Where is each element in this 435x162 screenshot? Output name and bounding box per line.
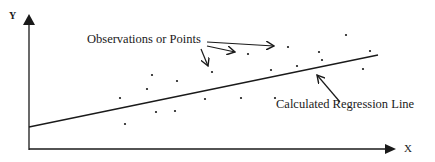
arrow-to-point-2	[207, 46, 235, 52]
data-point	[174, 110, 176, 112]
arrow-to-point-3	[201, 49, 208, 66]
regression-diagram: Y X Observations or Points Calculated Re…	[0, 0, 435, 162]
points-annotation-arrows	[201, 42, 274, 66]
data-point	[124, 123, 126, 125]
data-point	[318, 51, 320, 53]
data-point	[176, 80, 178, 82]
data-point	[204, 98, 206, 100]
data-point	[146, 88, 148, 90]
data-point	[287, 46, 289, 48]
regression-line	[29, 55, 378, 127]
data-point	[211, 71, 213, 73]
regression-line-annotation-label: Calculated Regression Line	[276, 98, 414, 111]
data-point	[362, 68, 364, 70]
y-axis-arrowhead-icon	[23, 14, 35, 25]
x-axis-label: X	[404, 143, 412, 154]
data-point	[119, 97, 121, 99]
data-point	[151, 74, 153, 76]
data-point	[247, 53, 249, 55]
arrow-to-point-1	[207, 42, 274, 46]
y-axis-label: Y	[9, 11, 16, 21]
data-point	[270, 69, 272, 71]
data-point	[240, 97, 242, 99]
x-axis-arrowhead-icon	[385, 144, 396, 154]
data-point	[296, 65, 298, 67]
data-point	[345, 34, 347, 36]
data-point	[155, 111, 157, 113]
diagram-canvas	[0, 0, 435, 162]
observation-points	[119, 34, 371, 125]
data-point	[369, 50, 371, 52]
data-point	[321, 59, 323, 61]
points-annotation-label: Observations or Points	[87, 33, 201, 46]
